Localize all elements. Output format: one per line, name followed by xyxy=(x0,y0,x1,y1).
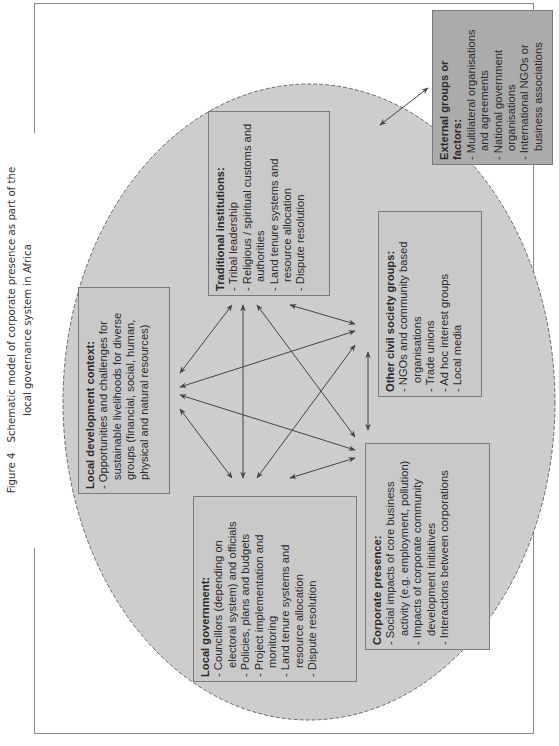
box-civil-society: Other civil society groups: NGOs and com… xyxy=(378,211,482,397)
box-item: Impacts of corporate community developme… xyxy=(411,450,438,645)
box-item: Opportunities and challenges for sustain… xyxy=(97,294,151,489)
box-item: Land tenure systems and resource allocat… xyxy=(279,503,306,677)
box-item: Dispute resolution xyxy=(294,118,307,291)
box-item: Interactions between corporations xyxy=(438,450,451,645)
box-title: Local government: xyxy=(199,503,212,677)
box-corporate-presence: Corporate presence: Social impacts of co… xyxy=(365,443,490,650)
box-title: Corporate presence: xyxy=(371,450,384,645)
box-item: Multilateral organisations and agreement… xyxy=(465,17,492,160)
box-title: Other civil society groups: xyxy=(384,218,397,392)
box-item: National government organisations xyxy=(492,17,519,160)
figure-page: Figure 4Schematic model of corporate pre… xyxy=(0,0,559,746)
box-item: Local media xyxy=(451,218,464,392)
box-item: Land tenure systems and resource allocat… xyxy=(268,118,295,291)
box-item: Religious / spiritual customs and author… xyxy=(241,118,268,291)
box-local-development: Local development context: Opportunities… xyxy=(78,287,170,494)
box-title: Local development context: xyxy=(84,294,97,489)
box-item: Trade unions xyxy=(424,218,437,392)
box-item: Policies, plans and budgets xyxy=(239,503,252,677)
box-title: External groups or factors: xyxy=(438,17,465,160)
box-title: Traditional institutions: xyxy=(214,118,227,291)
box-external-factors: External groups or factors: Multilateral… xyxy=(432,10,553,165)
box-local-government: Local government: Councillors (depending… xyxy=(193,496,357,682)
box-item: Ad hoc interest groups xyxy=(438,218,451,392)
box-item: Social impacts of core business activity… xyxy=(384,450,411,645)
box-item: NGOs and community based organisations xyxy=(397,218,424,392)
box-traditional-institutions: Traditional institutions: Tribal leaders… xyxy=(208,111,330,296)
box-item: Project implementation and monitoring xyxy=(253,503,280,677)
box-item: International NGOs or business associati… xyxy=(518,17,545,160)
box-item: Tribal leadership xyxy=(227,118,240,291)
box-item: Dispute resolution xyxy=(306,503,319,677)
box-item: Councillors (depending on electoral syst… xyxy=(212,503,239,677)
